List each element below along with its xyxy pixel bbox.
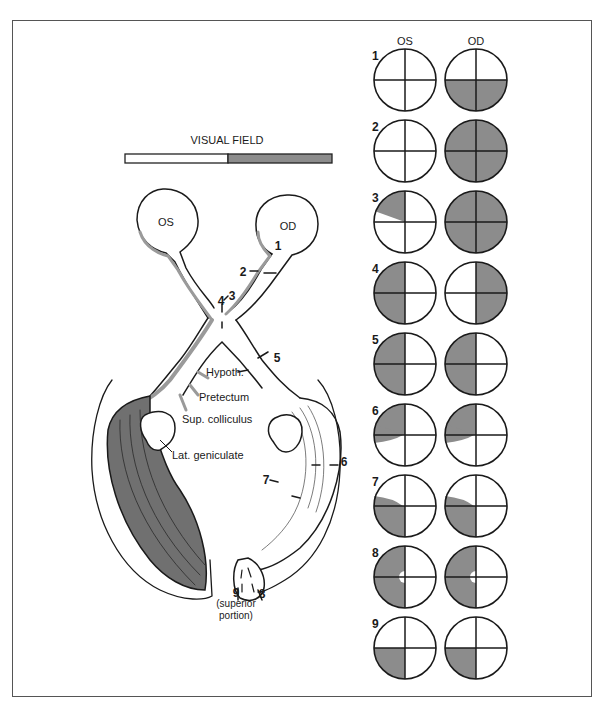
lesion-label-8: 8 bbox=[259, 587, 266, 601]
field-os-row-2 bbox=[374, 120, 436, 182]
lesion-label-5: 5 bbox=[274, 351, 281, 365]
right-lgn bbox=[268, 415, 302, 452]
field-row-number: 7 bbox=[372, 475, 379, 489]
eye-od bbox=[228, 195, 318, 320]
superior-portion-label-2: portion) bbox=[219, 610, 253, 621]
field-os-row-6 bbox=[374, 404, 436, 466]
lesion-label-9: 9 bbox=[233, 586, 240, 600]
lesion-label-7: 7 bbox=[263, 473, 270, 487]
field-os-row-4 bbox=[374, 262, 436, 324]
column-header-od: OD bbox=[468, 35, 485, 47]
visual-field-title: VISUAL FIELD bbox=[191, 134, 264, 146]
field-od-row-1 bbox=[445, 49, 507, 111]
visual-field-bar bbox=[125, 154, 332, 163]
field-od-row-4 bbox=[445, 262, 507, 324]
visual-pathway-figure: VISUAL FIELD bbox=[0, 0, 604, 711]
eye-os bbox=[137, 189, 214, 318]
pretectum-label: Pretectum bbox=[199, 391, 249, 403]
field-od-row-7 bbox=[445, 475, 507, 537]
field-os-row-7 bbox=[374, 475, 436, 537]
lesion-label-2: 2 bbox=[240, 265, 247, 279]
lesion-label-3: 3 bbox=[229, 289, 236, 303]
field-row-number: 1 bbox=[372, 49, 379, 63]
field-od-row-5 bbox=[445, 333, 507, 395]
field-os-row-8 bbox=[374, 546, 436, 608]
lat-geniculate-label: Lat. geniculate bbox=[172, 449, 244, 461]
field-od-row-3 bbox=[445, 191, 507, 253]
field-row-number: 9 bbox=[372, 617, 379, 631]
hypothalamus-label: Hypoth. bbox=[206, 366, 244, 378]
lesion-label-6: 6 bbox=[341, 455, 348, 469]
visual-field-chart: 123456789 bbox=[372, 49, 507, 679]
field-row-number: 8 bbox=[372, 546, 379, 560]
field-od-row-6 bbox=[445, 404, 507, 466]
field-row-number: 3 bbox=[372, 191, 379, 205]
eye-od-label: OD bbox=[280, 220, 297, 232]
field-os-row-3 bbox=[374, 191, 436, 253]
field-row-number: 2 bbox=[372, 120, 379, 134]
sup-colliculus-label: Sup. colliculus bbox=[182, 413, 253, 425]
field-os-row-9 bbox=[374, 617, 436, 679]
field-row-number: 5 bbox=[372, 333, 379, 347]
field-od-row-9 bbox=[445, 617, 507, 679]
field-row-number: 4 bbox=[372, 262, 379, 276]
column-header-os: OS bbox=[397, 35, 413, 47]
eye-os-label: OS bbox=[158, 216, 174, 228]
field-row-number: 6 bbox=[372, 404, 379, 418]
field-os-row-1 bbox=[374, 49, 436, 111]
lesion-label-1: 1 bbox=[275, 239, 282, 253]
field-od-row-2 bbox=[445, 120, 507, 182]
lesion-label-4: 4 bbox=[218, 294, 225, 308]
field-os-row-5 bbox=[374, 333, 436, 395]
field-od-row-8 bbox=[445, 546, 507, 608]
